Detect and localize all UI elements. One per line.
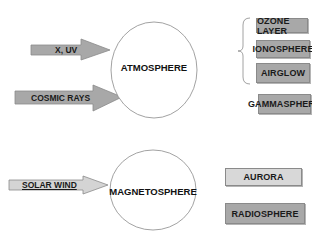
cosmic-rays-label: COSMIC RAYS bbox=[31, 93, 90, 103]
atmosphere-label: ATMOSPHERE bbox=[121, 62, 187, 73]
x-uv-label: X, UV bbox=[55, 45, 77, 55]
solar-wind-label: SOLAR WIND bbox=[22, 180, 77, 190]
ionosphere-box: IONOSPHERE bbox=[256, 40, 310, 58]
radiosphere-box: RADIOSPHERE bbox=[225, 203, 305, 224]
airglow-box: AIRGLOW bbox=[256, 63, 310, 83]
brace-shape bbox=[238, 18, 250, 84]
ozone-layer-box: OZONE LAYER bbox=[256, 18, 308, 33]
magnetosphere-label: MAGNETOSPHERE bbox=[109, 186, 196, 197]
gammasphere-box: GAMMASPHERE bbox=[258, 94, 311, 114]
aurora-box: AURORA bbox=[225, 168, 302, 186]
diagram-canvas: X, UV COSMIC RAYS SOLAR WIND ATMOSPHERE … bbox=[0, 0, 312, 233]
